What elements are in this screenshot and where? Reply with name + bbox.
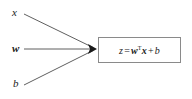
formula-equals: =: [123, 45, 131, 56]
input-label-x: x: [12, 7, 17, 18]
neuron-diagram: x w b z=wTx+b: [0, 0, 192, 99]
formula-box: z=wTx+b: [98, 37, 181, 63]
formula-text: z=wTx+b: [119, 45, 160, 56]
edge-x-to-node: [24, 14, 93, 48]
formula-bias: b: [155, 45, 160, 56]
input-label-b: b: [13, 78, 19, 89]
formula-plus: +: [147, 45, 155, 56]
edge-b-to-node: [24, 51, 93, 86]
input-label-w: w: [12, 43, 19, 54]
formula-weight-vector: w: [131, 45, 138, 56]
